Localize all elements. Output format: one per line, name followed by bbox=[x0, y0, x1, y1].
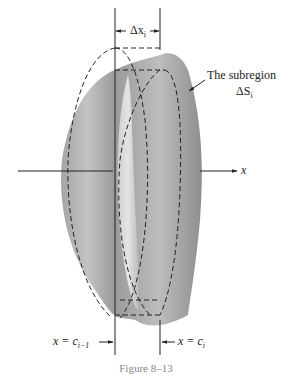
right-bound-label: x = ci bbox=[178, 334, 205, 350]
surface-left-band bbox=[61, 70, 115, 315]
delta-x-text: Δx bbox=[130, 23, 144, 37]
x-axis-label: x bbox=[241, 163, 246, 178]
left-bound-label: x = ci−1 bbox=[53, 334, 89, 350]
subregion-label-line1: The subregion bbox=[207, 68, 276, 83]
surface-of-revolution-diagram bbox=[0, 0, 292, 386]
right-bound-subscript: i bbox=[203, 341, 205, 350]
delta-x-subscript: i bbox=[144, 30, 146, 39]
left-bound-subscript: i−1 bbox=[78, 341, 90, 350]
subregion-symbol-text: ΔS bbox=[236, 84, 250, 98]
subregion-label: The subregion bbox=[207, 68, 276, 83]
delta-x-label: Δxi bbox=[130, 23, 146, 39]
figure-caption: Figure 8–13 bbox=[0, 362, 292, 374]
left-bound-text: x = c bbox=[53, 334, 78, 348]
right-bound-text: x = c bbox=[178, 334, 203, 348]
subregion-symbol: ΔSi bbox=[236, 84, 253, 100]
subregion-symbol-subscript: i bbox=[250, 91, 252, 100]
